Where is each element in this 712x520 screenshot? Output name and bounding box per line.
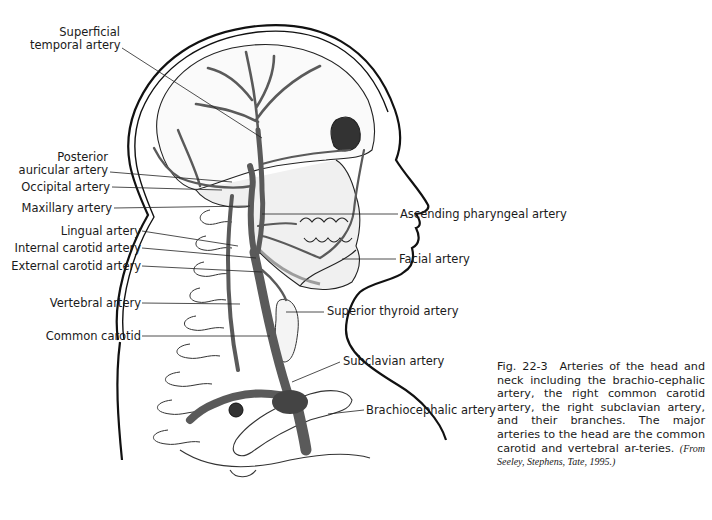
- aortic-arch: [272, 390, 308, 414]
- label-vertebral-artery: Vertebral artery: [10, 297, 141, 310]
- label-subclavian-artery: Subclavian artery: [343, 355, 444, 368]
- caption-text: Arteries of the head and neck including …: [497, 360, 705, 455]
- figure-caption: Fig. 22-3 Arteries of the head and neck …: [497, 360, 705, 469]
- label-common-carotid: Common carotid: [10, 330, 141, 343]
- figure-number: Fig. 22-3: [497, 360, 548, 373]
- label-superficial-temporal-artery: Superficial temporal artery: [30, 26, 120, 52]
- label-ascending-pharyngeal-artery: Ascending pharyngeal artery: [400, 208, 567, 221]
- internal-carotid-artery: [250, 166, 254, 252]
- label-occipital-artery: Occipital artery: [10, 181, 110, 194]
- vessel-cross-section: [229, 403, 243, 417]
- label-external-carotid-artery: External carotid artery: [10, 260, 141, 273]
- label-facial-artery: Facial artery: [399, 253, 470, 266]
- label-brachiocephalic-artery: Brachiocephalic artery: [366, 404, 496, 417]
- label-maxillary-artery: Maxillary artery: [10, 202, 112, 215]
- vertebral-artery: [228, 196, 238, 370]
- label-posterior-auricular-artery: Posterior auricular artery: [10, 151, 108, 177]
- cervical-vertebrae: [153, 210, 232, 444]
- label-lingual-artery: Lingual artery: [10, 225, 141, 238]
- label-superior-thyroid-artery: Superior thyroid artery: [327, 305, 458, 318]
- skull: [157, 45, 375, 290]
- label-internal-carotid-artery: Internal carotid artery: [10, 242, 141, 255]
